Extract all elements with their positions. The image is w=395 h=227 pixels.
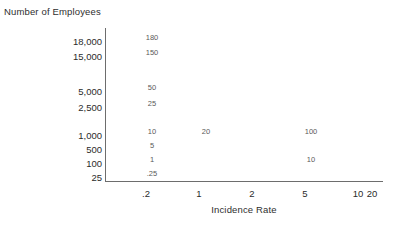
data-point-label: 150 (132, 48, 172, 57)
x-axis-title: Incidence Rate (105, 204, 383, 215)
data-point-label: 5 (132, 141, 172, 150)
data-point-label: 10 (132, 127, 172, 136)
data-point-label: 10 (291, 155, 331, 164)
data-point-label: 20 (186, 127, 226, 136)
data-point-label: 25 (132, 99, 172, 108)
chart-container: Number of Employees 18,00015,0005,0002,5… (0, 0, 395, 227)
data-point-label: 180 (132, 33, 172, 42)
data-point-label: 100 (291, 127, 331, 136)
data-point-labels: 180150502510201005110.25 (0, 0, 395, 227)
data-point-label: .25 (132, 169, 172, 178)
data-point-label: 50 (132, 83, 172, 92)
data-point-label: 1 (132, 155, 172, 164)
